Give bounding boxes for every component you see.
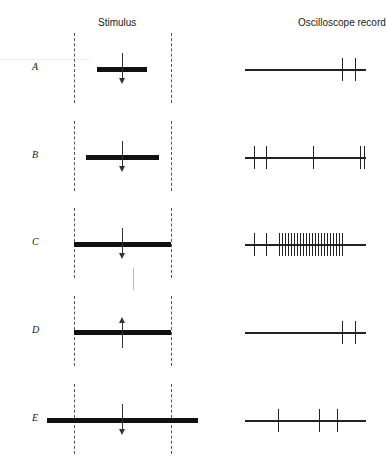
stimulus-header: Stimulus (98, 17, 136, 28)
action-potential-spike (333, 233, 334, 256)
arrow-down-icon (122, 404, 123, 430)
action-potential-spike (339, 233, 340, 256)
action-potential-spike (282, 233, 283, 256)
field-boundary-right (171, 208, 172, 278)
action-potential-spike (330, 233, 331, 256)
action-potential-spike (278, 409, 279, 432)
action-potential-spike (319, 409, 320, 432)
field-boundary-right (171, 296, 172, 366)
scan-artifact (133, 268, 134, 290)
action-potential-spike (360, 146, 361, 169)
action-potential-spike (297, 233, 298, 256)
arrow-head-down-icon (119, 253, 125, 259)
field-boundary-right (171, 121, 172, 191)
action-potential-spike (309, 233, 310, 256)
action-potential-spike (336, 233, 337, 256)
action-potential-spike (266, 146, 267, 169)
arrow-up-icon (122, 320, 123, 348)
action-potential-spike (254, 233, 255, 256)
action-potential-spike (327, 233, 328, 256)
action-potential-spike (342, 233, 343, 256)
action-potential-spike (285, 233, 286, 256)
action-potential-spike (279, 233, 280, 256)
action-potential-spike (291, 233, 292, 256)
action-potential-spike (294, 233, 295, 256)
field-boundary-left (74, 121, 75, 191)
field-boundary-left (74, 33, 75, 103)
field-boundary-right (171, 33, 172, 103)
oscilloscope-trace (245, 69, 366, 71)
oscilloscope-trace (245, 332, 366, 334)
row-label-b: B (32, 149, 38, 160)
row-label-a: A (32, 61, 38, 72)
arrow-head-down-icon (119, 166, 125, 172)
arrow-head-down-icon (119, 78, 125, 84)
action-potential-spike (355, 321, 356, 344)
action-potential-spike (313, 146, 314, 169)
arrow-head-down-icon (119, 429, 125, 435)
oscilloscope-trace (245, 157, 366, 159)
action-potential-spike (315, 233, 316, 256)
action-potential-spike (321, 233, 322, 256)
action-potential-spike (300, 233, 301, 256)
action-potential-spike (318, 233, 319, 256)
arrow-down-icon (122, 141, 123, 167)
arrow-down-icon (122, 53, 123, 79)
scan-artifact-line (0, 59, 90, 60)
action-potential-spike (306, 233, 307, 256)
action-potential-spike (342, 321, 343, 344)
action-potential-spike (254, 146, 255, 169)
action-potential-spike (364, 146, 365, 169)
oscilloscope-trace (245, 420, 366, 422)
arrow-head-up-icon (119, 317, 125, 323)
row-label-d: D (32, 324, 39, 335)
oscilloscope-header: Oscilloscope record (298, 17, 386, 28)
action-potential-spike (266, 233, 267, 256)
action-potential-spike (324, 233, 325, 256)
row-label-c: C (32, 236, 39, 247)
row-label-e: E (32, 412, 38, 423)
action-potential-spike (342, 58, 343, 81)
action-potential-spike (288, 233, 289, 256)
action-potential-spike (312, 233, 313, 256)
action-potential-spike (303, 233, 304, 256)
action-potential-spike (355, 58, 356, 81)
arrow-down-icon (122, 228, 123, 254)
action-potential-spike (337, 409, 338, 432)
